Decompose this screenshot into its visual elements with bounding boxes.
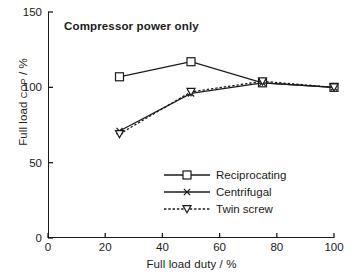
- y-axis-tick-label: 50: [8, 157, 42, 169]
- y-axis-label-suffix: / %: [17, 58, 29, 78]
- legend-label: Centrifugal: [211, 186, 272, 198]
- legend-line-sample: [163, 201, 211, 217]
- legend-label: Twin screw: [211, 203, 273, 215]
- marker-open-square: [183, 171, 191, 179]
- legend-item: Twin screw: [163, 200, 313, 217]
- chart-title: Compressor power only: [64, 20, 199, 32]
- legend-item: Centrifugal: [163, 183, 313, 200]
- y-axis-tick-label: 100: [8, 81, 42, 93]
- legend-label: Reciprocating: [211, 169, 286, 181]
- x-axis-tick-label: 100: [314, 241, 350, 253]
- x-axis-tick-label: 20: [85, 241, 125, 253]
- legend-item: Reciprocating: [163, 166, 313, 183]
- legend-line-sample: [163, 184, 211, 200]
- chart-legend: ReciprocatingCentrifugalTwin screw: [163, 166, 313, 217]
- legend-sample-open-square: [163, 167, 211, 183]
- x-axis-tick-label: 0: [28, 241, 68, 253]
- legend-line-sample: [163, 167, 211, 183]
- y-axis-label: Full load COP / %: [17, 27, 29, 177]
- x-axis-tick-label: 80: [257, 241, 297, 253]
- chart-figure: Full load COP / % Full load duty / % 050…: [0, 0, 350, 280]
- y-axis-tick-label: 150: [8, 6, 42, 18]
- x-axis-label: Full load duty / %: [48, 258, 335, 270]
- legend-sample-x-cross: [163, 184, 211, 200]
- x-axis-tick-label: 60: [200, 241, 240, 253]
- y-axis-label-main: Full load: [17, 98, 29, 146]
- x-axis-tick-label: 40: [142, 241, 182, 253]
- legend-sample-open-triangle-down: [163, 201, 211, 217]
